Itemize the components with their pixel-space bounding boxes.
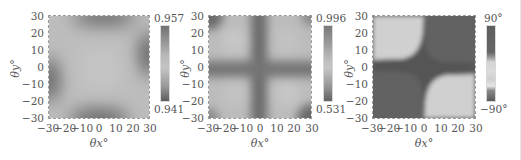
heatmap-3	[372, 15, 476, 119]
colorbar-3	[486, 25, 496, 102]
colorbar-min-label: −90°	[480, 103, 507, 115]
x-tick: 30	[465, 123, 487, 133]
y-tick: 20	[344, 28, 368, 38]
x-axis-label: θx°	[404, 137, 444, 150]
colorbar-max-label: 90°	[484, 12, 503, 24]
y-tick: −20	[344, 96, 368, 106]
y-axis-label: θy°	[343, 54, 356, 84]
panel-3: 30 20 10 0 −10 −20 −30 θy° −30 −20 −10 0…	[0, 0, 521, 160]
y-tick: 30	[344, 11, 368, 21]
